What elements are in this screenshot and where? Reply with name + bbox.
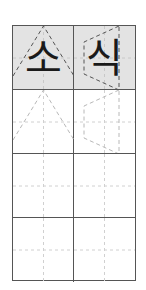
triangle-trace-icon [13, 90, 74, 154]
model-cell-sik: 식 [74, 26, 135, 90]
trace-cell-sik[interactable] [74, 90, 135, 154]
center-guides [74, 154, 135, 218]
practice-cell[interactable] [74, 218, 135, 282]
practice-row [13, 218, 135, 282]
model-character: 소 [13, 26, 73, 90]
trace-cell-so[interactable] [13, 90, 74, 154]
practice-cell[interactable] [74, 154, 135, 218]
model-row: 소 식 [13, 26, 135, 90]
center-guides [13, 218, 73, 282]
practice-cell[interactable] [13, 218, 74, 282]
model-character: 식 [74, 26, 135, 90]
model-cell-so: 소 [13, 26, 74, 90]
practice-cell[interactable] [13, 154, 74, 218]
practice-row [13, 154, 135, 218]
pentagon-trace-icon [74, 90, 135, 154]
practice-grid: 소 식 [12, 25, 136, 281]
center-guides [74, 218, 135, 282]
center-guides [13, 154, 73, 218]
trace-row [13, 90, 135, 154]
